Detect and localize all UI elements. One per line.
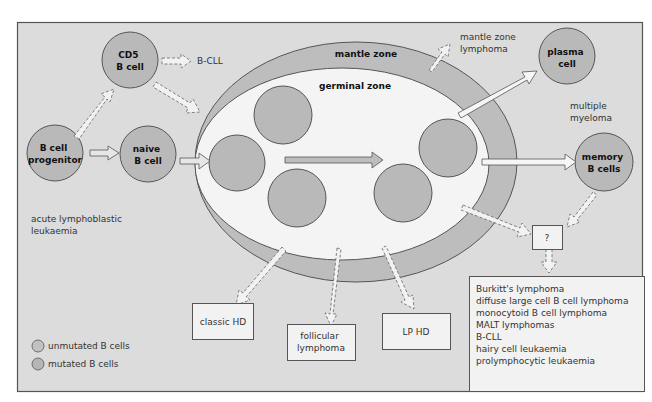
legend-label-unmutated: unmutated B cells	[48, 341, 130, 351]
label-b-cll: B-CLL	[197, 56, 223, 66]
legend-label-mutated: mutated B cells	[48, 359, 119, 369]
box-classic-hd-text: classic HD	[200, 317, 246, 327]
cell-naive-b-cell	[120, 126, 176, 182]
b-cell-lymphoma-diagram: mantle zone germinal zone B cell progeni…	[0, 0, 652, 402]
germinal-cell	[419, 119, 477, 177]
cell-memory-b-cells	[575, 133, 633, 191]
germinal-cell	[209, 135, 265, 191]
legend-swatch-unmutated	[32, 340, 44, 352]
cell-cd5-b-cell	[102, 32, 158, 88]
box-question-text: ?	[545, 233, 550, 243]
germinal-cell	[374, 164, 432, 222]
germinal-cell	[268, 169, 326, 227]
germinal-zone-label: germinal zone	[319, 81, 391, 91]
legend-swatch-mutated	[32, 358, 44, 370]
mantle-zone-label: mantle zone	[335, 49, 397, 59]
germinal-cell	[254, 86, 312, 144]
cell-b-cell-progenitor	[27, 125, 83, 181]
box-lp-hd-text: LP HD	[403, 327, 430, 337]
